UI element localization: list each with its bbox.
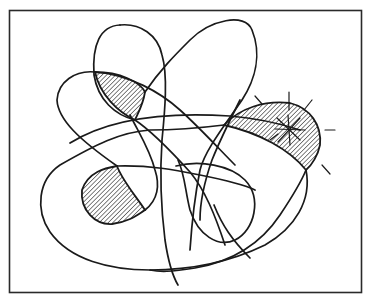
figure-caption	[10, 295, 362, 303]
hatched-region-right	[224, 102, 320, 170]
loop-curves	[41, 20, 308, 285]
loop-illustration	[0, 0, 369, 303]
hatched-region-lower-left	[82, 166, 145, 224]
